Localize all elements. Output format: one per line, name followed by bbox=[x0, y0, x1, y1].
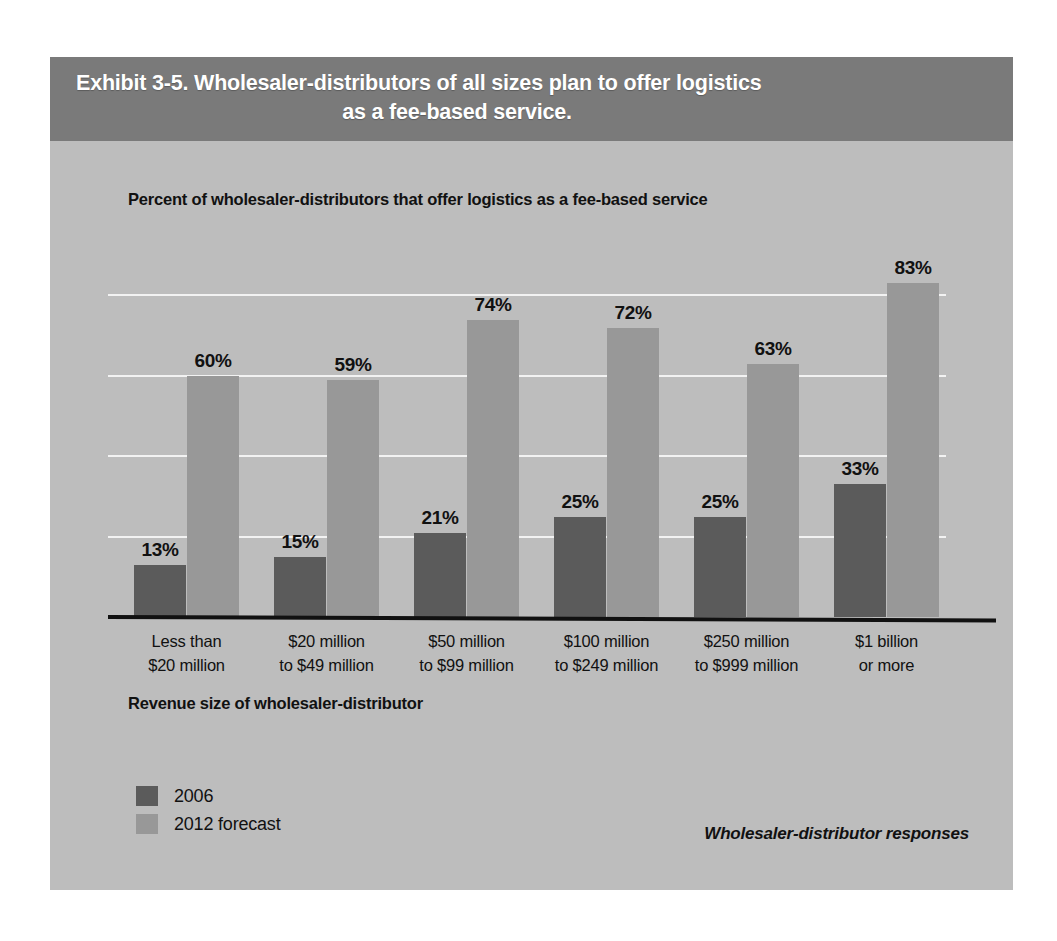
legend-item-2012-forecast: 2012 forecast bbox=[136, 810, 280, 838]
chart-legend: 20062012 forecast bbox=[136, 782, 280, 838]
category-label-line: or more bbox=[811, 653, 963, 677]
category-label-line: $50 million bbox=[391, 629, 543, 653]
legend-swatch bbox=[136, 814, 158, 834]
chart-subtitle: Percent of wholesaler-distributors that … bbox=[128, 190, 708, 209]
bar-value-label: 15% bbox=[281, 531, 318, 553]
category-label-line: to $99 million bbox=[391, 653, 543, 677]
bar-2012-forecast-5: 83% bbox=[887, 283, 939, 617]
legend-item-2006: 2006 bbox=[136, 782, 280, 810]
category-label-4: $250 millionto $999 million bbox=[671, 629, 823, 677]
x-axis-category-labels: Less than$20 million$20 millionto $49 mi… bbox=[108, 629, 996, 689]
legend-label: 2012 forecast bbox=[174, 814, 280, 835]
bar-value-label: 60% bbox=[194, 350, 231, 372]
bar-2006-2: 21% bbox=[414, 533, 466, 617]
exhibit-title-line-2: as a fee-based service. bbox=[72, 98, 992, 127]
bar-value-label: 83% bbox=[894, 257, 931, 279]
category-label-1: $20 millionto $49 million bbox=[251, 629, 403, 677]
bar-value-label: 63% bbox=[754, 338, 791, 360]
bar-2006-0: 13% bbox=[134, 565, 186, 617]
bar-value-label: 21% bbox=[421, 507, 458, 529]
category-label-line: to $49 million bbox=[251, 653, 403, 677]
exhibit-title: Exhibit 3-5. Wholesaler-distributors of … bbox=[72, 69, 992, 127]
bar-value-label: 72% bbox=[614, 302, 651, 324]
bar-2006-4: 25% bbox=[694, 517, 746, 618]
category-label-5: $1 billionor more bbox=[811, 629, 963, 677]
exhibit-panel: Exhibit 3-5. Wholesaler-distributors of … bbox=[50, 57, 1013, 890]
bar-2012-forecast-0: 60% bbox=[187, 376, 239, 617]
bar-2006-1: 15% bbox=[274, 557, 326, 617]
chart-bars-layer: 13%60%15%59%21%74%25%72%25%63%33%83% bbox=[108, 215, 996, 617]
category-label-line: $100 million bbox=[531, 629, 683, 653]
category-label-line: $20 million bbox=[251, 629, 403, 653]
exhibit-header-band: Exhibit 3-5. Wholesaler-distributors of … bbox=[50, 57, 1013, 141]
bar-value-label: 59% bbox=[334, 354, 371, 376]
bar-value-label: 13% bbox=[141, 539, 178, 561]
category-label-3: $100 millionto $249 million bbox=[531, 629, 683, 677]
category-label-line: to $249 million bbox=[531, 653, 683, 677]
plot-area: 13%60%15%59%21%74%25%72%25%63%33%83% bbox=[108, 215, 996, 617]
bar-2006-5: 33% bbox=[834, 484, 886, 617]
bar-2012-forecast-4: 63% bbox=[747, 364, 799, 617]
legend-swatch bbox=[136, 786, 158, 806]
source-note: Wholesaler-distributor responses bbox=[704, 824, 969, 844]
bar-value-label: 74% bbox=[474, 294, 511, 316]
category-label-line: Less than bbox=[111, 629, 263, 653]
bar-value-label: 25% bbox=[561, 491, 598, 513]
legend-label: 2006 bbox=[174, 786, 213, 807]
bar-value-label: 25% bbox=[701, 491, 738, 513]
category-label-0: Less than$20 million bbox=[111, 629, 263, 677]
bar-2012-forecast-1: 59% bbox=[327, 380, 379, 617]
bar-2012-forecast-3: 72% bbox=[607, 328, 659, 617]
x-axis-title: Revenue size of wholesaler-distributor bbox=[128, 694, 423, 713]
category-label-line: $20 million bbox=[111, 653, 263, 677]
category-label-line: $250 million bbox=[671, 629, 823, 653]
bar-value-label: 33% bbox=[841, 458, 878, 480]
bar-2006-3: 25% bbox=[554, 517, 606, 618]
exhibit-title-line-1: Exhibit 3-5. Wholesaler-distributors of … bbox=[72, 69, 992, 98]
bar-2012-forecast-2: 74% bbox=[467, 320, 519, 617]
category-label-2: $50 millionto $99 million bbox=[391, 629, 543, 677]
category-label-line: to $999 million bbox=[671, 653, 823, 677]
category-label-line: $1 billion bbox=[811, 629, 963, 653]
